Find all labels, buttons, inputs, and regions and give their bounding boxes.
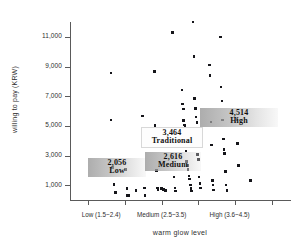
- annotation-medium-category: Medium: [148, 161, 198, 169]
- data-point: [164, 189, 167, 192]
- x-tick-mark: [235, 200, 236, 205]
- x-tick-mark: [198, 200, 199, 205]
- y-tick-label-wrap: 11,000: [20, 32, 62, 41]
- annotation-high-category: High: [203, 117, 275, 125]
- data-point: [224, 170, 227, 173]
- data-point: [210, 144, 213, 147]
- data-point: [220, 86, 223, 89]
- data-point: [189, 184, 192, 187]
- data-point: [226, 189, 229, 192]
- data-point: [192, 21, 195, 24]
- data-point: [174, 190, 177, 193]
- y-tick-label-wrap: 7,000: [20, 92, 62, 101]
- data-point: [223, 152, 226, 155]
- data-point: [182, 119, 185, 122]
- data-point: [223, 148, 226, 151]
- annotation-traditional: 3,464 Traditional: [141, 127, 203, 148]
- y-tick-label: 11,000: [42, 32, 62, 39]
- annotation-high: 4,514 High: [200, 108, 278, 127]
- data-point: [249, 179, 252, 182]
- data-point: [219, 36, 222, 39]
- data-point: [198, 176, 201, 179]
- data-point: [157, 188, 160, 191]
- data-point: [135, 189, 138, 192]
- y-tick-label: 1,000: [45, 181, 62, 188]
- annotation-medium: 2,616 Medium: [145, 152, 201, 171]
- x-tick-mark: [88, 200, 89, 205]
- data-point: [199, 182, 202, 185]
- data-point: [173, 176, 176, 179]
- x-tick-mark: [125, 200, 126, 205]
- data-point: [181, 89, 184, 92]
- data-point: [127, 194, 130, 197]
- data-point: [114, 191, 117, 194]
- y-tick-label-wrap: 1,000: [20, 181, 62, 190]
- x-axis-line: [70, 200, 291, 201]
- x-tick-label: Medium (2.5~3.5): [128, 211, 196, 218]
- data-point: [199, 187, 202, 190]
- data-point: [222, 138, 225, 141]
- x-tick-label: Low (1.5~2.4): [67, 211, 135, 218]
- y-axis-title: willing to pay (KRW): [11, 40, 18, 160]
- data-point: [143, 187, 146, 190]
- y-tick-label-wrap: 5,000: [20, 121, 62, 130]
- x-tick-mark: [272, 200, 273, 205]
- data-point: [193, 55, 196, 58]
- data-point: [190, 190, 193, 193]
- data-point: [236, 142, 239, 145]
- y-tick-label: 3,000: [45, 151, 62, 158]
- annotation-low: 2,056 Low: [88, 158, 146, 177]
- annotation-low-category: Low: [91, 167, 143, 175]
- data-point: [182, 108, 185, 111]
- data-point: [225, 184, 228, 187]
- x-tick-label: High (3.6~4.5): [196, 211, 264, 218]
- y-tick-label: 9,000: [45, 62, 62, 69]
- data-point: [144, 194, 147, 197]
- data-point: [141, 115, 144, 118]
- y-tick-label: 7,000: [45, 92, 62, 99]
- data-point: [188, 178, 191, 181]
- scatter-chart-figure: willing to pay (KRW) 1,0003,0005,0007,00…: [0, 0, 297, 252]
- y-tick-label-wrap: 9,000: [20, 62, 62, 71]
- data-point: [208, 64, 211, 67]
- data-point: [237, 164, 240, 167]
- data-point: [221, 100, 224, 103]
- data-point: [193, 97, 196, 100]
- data-point: [209, 74, 212, 77]
- data-point: [194, 107, 197, 110]
- data-point: [181, 103, 184, 106]
- data-point: [110, 72, 113, 75]
- data-point: [171, 31, 174, 34]
- data-point: [110, 119, 113, 122]
- x-tick-mark: [162, 200, 163, 205]
- data-point: [211, 179, 214, 182]
- annotation-traditional-category: Traditional: [145, 137, 199, 145]
- data-point: [212, 189, 215, 192]
- x-axis-title: warm glow level: [70, 229, 290, 236]
- data-point: [113, 183, 116, 186]
- data-point: [153, 70, 156, 73]
- data-point: [212, 184, 215, 187]
- y-tick-label: 5,000: [45, 121, 62, 128]
- data-point: [196, 121, 199, 124]
- data-point: [126, 187, 129, 190]
- y-tick-label-wrap: 3,000: [20, 151, 62, 160]
- data-point: [195, 116, 198, 119]
